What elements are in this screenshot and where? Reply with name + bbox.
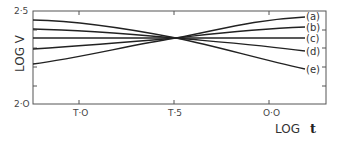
curve-label-c: (c): [306, 33, 319, 44]
x-axis-label-prefix: LOG: [275, 122, 300, 136]
y-ticks-right: [322, 30, 326, 86]
curve-label-d: (d): [306, 46, 320, 57]
curve-label-a: (a): [306, 11, 320, 22]
x-tick-label-1: T·O: [72, 108, 88, 118]
x-tick-label-3: O·O: [263, 108, 280, 118]
curve-e: [33, 20, 305, 69]
x-axis-label-variable: t: [310, 121, 316, 136]
curve-label-e: (e): [306, 64, 320, 75]
y-tick-label-top: 2·5: [14, 6, 28, 16]
x-ticks-bottom: [79, 100, 269, 104]
curve-label-b: (b): [306, 22, 320, 33]
curve-d: [33, 29, 305, 51]
log-v-vs-log-t-chart: (a) (b) (c) (d) (e) 2·5 2·O LOG V T·O T·…: [0, 0, 339, 144]
plot-frame: [33, 11, 326, 104]
y-tick-label-bottom: 2·O: [14, 99, 30, 109]
curve-a: [33, 17, 305, 64]
x-ticks-top: [79, 11, 269, 15]
x-tick-label-2: T·5: [167, 108, 182, 118]
y-axis-label: LOG V: [13, 34, 27, 72]
